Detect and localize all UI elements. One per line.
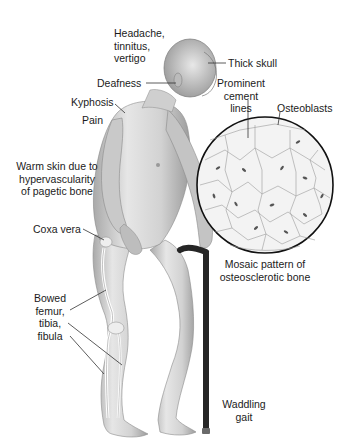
label-thick-skull: Thick skull [228,57,277,70]
label-bowed-bones: Bowed femur, tibia, fibula [30,292,70,342]
label-warm-skin: Warm skin due to hypervascularity of pag… [12,160,102,198]
label-waddling-gait: Waddling gait [216,398,272,423]
label-kyphosis: Kyphosis [71,96,114,109]
label-coxa-vera: Coxa vera [33,223,81,236]
label-osteoblasts: Osteoblasts [277,102,332,115]
bone-magnification-circle [197,117,333,253]
label-deafness: Deafness [97,77,141,90]
label-headache: Headache, tinnitus, vertigo [114,27,165,65]
label-mosaic-pattern: Mosaic pattern of osteosclerotic bone [216,258,314,283]
label-cement-lines: Prominent cement lines [212,77,270,115]
label-pain: Pain [82,114,103,127]
